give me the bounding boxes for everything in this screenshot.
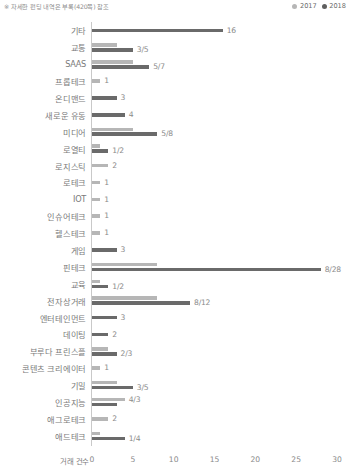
bar-row: 기타16 bbox=[0, 22, 352, 39]
bar-line-2017: 2 bbox=[92, 417, 352, 421]
bar-line-2017: 1 bbox=[92, 231, 352, 235]
bar-2018 bbox=[92, 96, 117, 100]
bar-row: 인슈어테크1 bbox=[0, 208, 352, 225]
category-label: 인공지능 bbox=[0, 394, 86, 411]
bar-2017 bbox=[92, 231, 100, 235]
bar-row: 교통3/5 bbox=[0, 39, 352, 56]
bar-value-label: 8/12 bbox=[194, 299, 210, 307]
bar-row: 새로운 유동4 bbox=[0, 106, 352, 123]
bar-2018 bbox=[92, 149, 108, 153]
bar-value-label: 3 bbox=[121, 246, 126, 254]
bar-row: 전자상거래8/12 bbox=[0, 292, 352, 309]
bar-line-2018: 2/3 bbox=[92, 352, 352, 356]
bar-value-label: 4 bbox=[129, 111, 134, 119]
bar-value-label: 2 bbox=[112, 331, 117, 339]
legend-label-2018: 2018 bbox=[329, 2, 346, 10]
bar-2017 bbox=[92, 432, 100, 436]
bar-row: 게임3 bbox=[0, 242, 352, 259]
bar-2017 bbox=[92, 366, 100, 370]
bar-line-2018: 2 bbox=[92, 333, 352, 337]
bar-line-2018: 4 bbox=[92, 113, 352, 117]
x-tick-label: 25 bbox=[291, 455, 301, 464]
bar-line-2018: 8/28 bbox=[92, 268, 352, 272]
category-label: 프롭테크 bbox=[0, 73, 86, 90]
bar-value-label: 2 bbox=[112, 162, 117, 170]
category-label: 기밀 bbox=[0, 377, 86, 394]
bar-line-2017: 2 bbox=[92, 164, 352, 168]
bar-group: 1/2 bbox=[92, 275, 352, 292]
bar-group: 1 bbox=[92, 208, 352, 225]
x-tick-label: 0 bbox=[90, 455, 95, 464]
bar-2017 bbox=[92, 198, 100, 202]
bar-row: 인공지능4/3 bbox=[0, 394, 352, 411]
bar-2017 bbox=[92, 296, 157, 300]
x-tick-label: 10 bbox=[169, 455, 179, 464]
bar-2017 bbox=[92, 60, 133, 64]
bar-row: 미디어5/8 bbox=[0, 123, 352, 140]
bar-value-label: 2/3 bbox=[121, 350, 133, 358]
category-label: 전자상거래 bbox=[0, 292, 86, 309]
bar-2018 bbox=[92, 333, 108, 337]
bar-2018 bbox=[92, 352, 117, 356]
bar-row: 핀테크8/28 bbox=[0, 258, 352, 275]
category-label: 엔터테인먼트 bbox=[0, 309, 86, 326]
bar-row: IOT1 bbox=[0, 191, 352, 208]
bar-value-label: 3 bbox=[121, 314, 126, 322]
bar-row: 애드테크1/4 bbox=[0, 427, 352, 444]
bar-value-label: 1/4 bbox=[129, 435, 141, 443]
bar-line-2018: 3 bbox=[92, 96, 352, 100]
bar-group: 1/2 bbox=[92, 140, 352, 157]
bar-2017 bbox=[92, 79, 100, 83]
bar-value-label: 2 bbox=[112, 415, 117, 423]
bar-2018 bbox=[92, 248, 117, 252]
category-label: SAAS bbox=[0, 56, 86, 73]
bar-2018 bbox=[92, 386, 133, 390]
bar-group: 4 bbox=[92, 106, 352, 123]
bar-line-2018: 16 bbox=[92, 29, 352, 33]
category-label: 애드테크 bbox=[0, 427, 86, 444]
bar-row: SAAS5/7 bbox=[0, 56, 352, 73]
bar-group: 2/3 bbox=[92, 343, 352, 360]
bar-2018 bbox=[92, 48, 133, 52]
category-label: 교육 bbox=[0, 275, 86, 292]
x-tick-label: 15 bbox=[210, 455, 220, 464]
bar-value-label: 1 bbox=[104, 364, 109, 372]
chart-container: ※ 자세한 펀딩 내역은 부록(420쪽) 참조 2017 2018 기타16교… bbox=[0, 0, 352, 473]
bar-2017 bbox=[92, 347, 108, 351]
bar-value-label: 1 bbox=[104, 229, 109, 237]
bar-group: 8/12 bbox=[92, 292, 352, 309]
bar-2018 bbox=[92, 113, 125, 117]
bar-2017 bbox=[92, 398, 125, 402]
category-label: 콘텐츠 크리에이터 bbox=[0, 360, 86, 377]
bar-group: 8/28 bbox=[92, 258, 352, 275]
chart-legend: 2017 2018 bbox=[292, 2, 346, 10]
bar-line-2017: 1 bbox=[92, 198, 352, 202]
bar-2017 bbox=[92, 144, 100, 148]
category-label: 헬스테크 bbox=[0, 225, 86, 242]
bar-row: 온디맨드3 bbox=[0, 90, 352, 107]
bar-group: 1/4 bbox=[92, 427, 352, 444]
bar-line-2018 bbox=[92, 403, 352, 407]
footnote-text: ※ 자세한 펀딩 내역은 부록(420쪽) 참조 bbox=[4, 2, 109, 11]
bar-group: 3/5 bbox=[92, 39, 352, 56]
plot-area: 기타16교통3/5SAAS5/7프롭테크1온디맨드3새로운 유동4미디어5/8로… bbox=[0, 18, 352, 453]
bar-line-2017 bbox=[92, 43, 352, 47]
bar-group: 1 bbox=[92, 360, 352, 377]
bar-2018 bbox=[92, 29, 223, 33]
bar-line-2018: 5/8 bbox=[92, 132, 352, 136]
bar-line-2018: 3 bbox=[92, 248, 352, 252]
legend-item-2017: 2017 bbox=[292, 2, 316, 10]
bar-line-2017: 1 bbox=[92, 214, 352, 218]
category-label: 인슈어테크 bbox=[0, 208, 86, 225]
bar-value-label: 1/2 bbox=[112, 283, 124, 291]
bar-value-label: 1 bbox=[104, 196, 109, 204]
bar-row: 프롭테크1 bbox=[0, 73, 352, 90]
bar-group: 3 bbox=[92, 242, 352, 259]
bar-group: 1 bbox=[92, 225, 352, 242]
legend-item-2018: 2018 bbox=[322, 2, 346, 10]
bar-value-label: 8/28 bbox=[325, 266, 341, 274]
bar-row: 엔터테인먼트3 bbox=[0, 309, 352, 326]
legend-dot-2017 bbox=[292, 4, 297, 9]
bar-value-label: 3/5 bbox=[137, 46, 149, 54]
bar-row: 로지스틱2 bbox=[0, 157, 352, 174]
